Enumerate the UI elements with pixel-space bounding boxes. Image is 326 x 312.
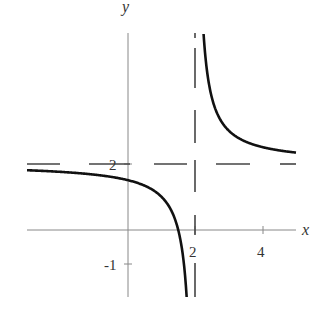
- x-tick-label-4: 4: [257, 244, 265, 260]
- curve-left-branch: [27, 170, 187, 297]
- y-tick-label-m1: -1: [104, 257, 117, 273]
- function-graph: y x 2 4 2 -1: [0, 0, 326, 312]
- y-tick-label-2: 2: [109, 157, 117, 173]
- x-tick-label-2: 2: [189, 244, 197, 260]
- x-axis-label: x: [301, 221, 309, 238]
- y-axis-label: y: [120, 0, 130, 16]
- curve-right-branch: [204, 34, 296, 153]
